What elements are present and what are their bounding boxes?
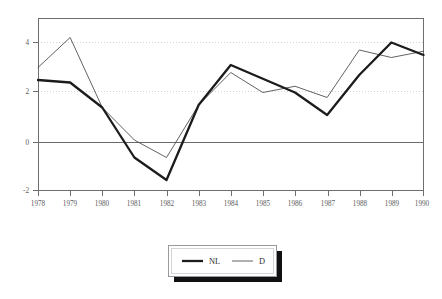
y-axis-label-0: 0 bbox=[25, 139, 29, 147]
x-axis-label-1984: 1984 bbox=[224, 200, 239, 208]
x-axis-label-1983: 1983 bbox=[192, 200, 207, 208]
x-axis-label-1978: 1978 bbox=[31, 200, 46, 208]
legend-label-d: D bbox=[259, 257, 265, 266]
x-axis-label-1985: 1985 bbox=[256, 200, 271, 208]
x-axis-label-1982: 1982 bbox=[160, 200, 175, 208]
x-axis-label-1988: 1988 bbox=[353, 200, 368, 208]
x-axis-label-1979: 1979 bbox=[63, 200, 78, 208]
x-axis-label-1990: 1990 bbox=[415, 200, 430, 208]
chart-figure: 4 2 0 -2 1978 1979 1980 1981 bbox=[0, 0, 442, 299]
x-axis-label-1986: 1986 bbox=[288, 200, 303, 208]
x-axis-label-1980: 1980 bbox=[95, 200, 110, 208]
legend-label-nl: NL bbox=[209, 257, 220, 266]
legend[interactable]: NL D bbox=[169, 246, 283, 283]
x-axis-label-1987: 1987 bbox=[321, 200, 336, 208]
x-axis-label-1981: 1981 bbox=[127, 200, 142, 208]
x-axis-label-1989: 1989 bbox=[385, 200, 400, 208]
y-axis-label-minus-2: -2 bbox=[23, 187, 29, 195]
line-chart: 4 2 0 -2 1978 1979 1980 1981 bbox=[0, 0, 442, 299]
y-axis-label-4: 4 bbox=[25, 39, 29, 47]
y-axis-label-2: 2 bbox=[25, 88, 29, 96]
